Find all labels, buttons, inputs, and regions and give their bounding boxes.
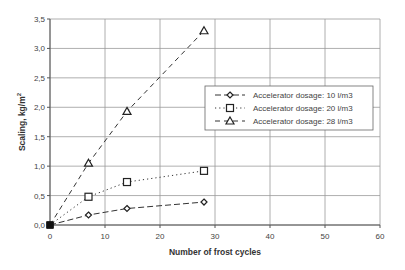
y-axis-ticks: 0,00,51,01,52,02,53,03,5 <box>34 15 50 230</box>
x-tick-label: 40 <box>266 232 275 241</box>
origin-marker <box>47 222 54 229</box>
x-tick-label: 50 <box>321 232 330 241</box>
y-tick-label: 0,5 <box>34 192 46 201</box>
square-marker <box>85 193 92 200</box>
y-tick-label: 3,5 <box>34 15 46 24</box>
diamond-marker <box>201 199 207 205</box>
legend: Accelerator dosage: 10 l/m3Accelerator d… <box>205 86 373 130</box>
legend-label: Accelerator dosage: 10 l/m3 <box>253 91 353 100</box>
y-axis-title: Scaling, kg/m2 <box>16 92 27 151</box>
x-tick-label: 60 <box>376 232 385 241</box>
x-axis-ticks: 0102030405060 <box>48 225 385 241</box>
x-tick-label: 20 <box>156 232 165 241</box>
square-legend-icon <box>227 105 234 112</box>
scaling-chart: 0102030405060 0,00,51,01,52,02,53,03,5 N… <box>0 0 405 270</box>
y-tick-label: 0,0 <box>34 221 46 230</box>
x-axis-title: Number of frost cycles <box>169 247 261 257</box>
diamond-marker <box>86 212 92 218</box>
square-marker <box>124 179 131 186</box>
data-series <box>47 27 209 229</box>
y-tick-label: 2,0 <box>34 103 46 112</box>
y-tick-label: 1,5 <box>34 133 46 142</box>
x-tick-label: 10 <box>101 232 110 241</box>
y-tick-label: 3,0 <box>34 44 46 53</box>
x-tick-label: 30 <box>211 232 220 241</box>
diamond-marker <box>124 206 130 212</box>
legend-label: Accelerator dosage: 28 l/m3 <box>253 117 353 126</box>
y-tick-label: 2,5 <box>34 74 46 83</box>
series-diamond <box>47 199 208 228</box>
triangle-marker <box>123 107 131 114</box>
triangle-marker <box>200 27 208 34</box>
y-tick-label: 1,0 <box>34 162 46 171</box>
x-tick-label: 0 <box>48 232 53 241</box>
square-marker <box>201 167 208 174</box>
series-triangle <box>47 27 209 229</box>
legend-label: Accelerator dosage: 20 l/m3 <box>253 104 353 113</box>
